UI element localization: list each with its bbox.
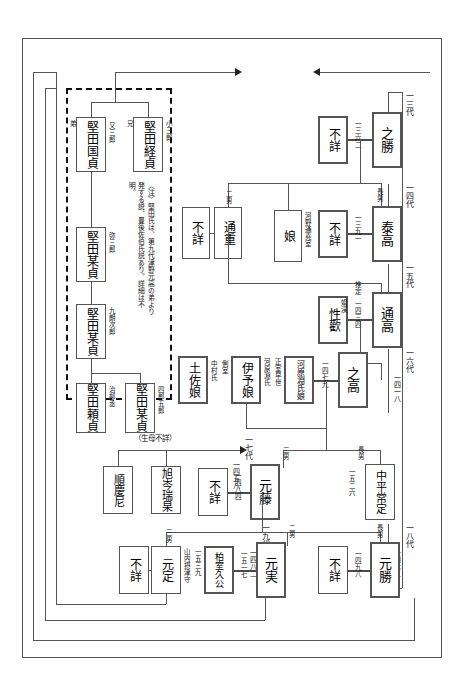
person-name: 順慶尼	[112, 474, 123, 507]
label-seibo-fushou: （生母不詳）	[134, 432, 176, 443]
person-box-nakahira: 中平常定	[365, 464, 395, 520]
ln-16-spine	[326, 428, 327, 450]
rail-right-outer	[414, 598, 415, 640]
person-box-bousada1: 堅田某貞	[76, 227, 106, 282]
person-name: 堅田某貞	[85, 231, 97, 279]
katada-note: 〈注〉堅田氏は、第九代津野元高の弟より発する説、豊後佐伯氏説あり。詳細は不明。	[126, 182, 154, 317]
ln-16-drop	[326, 380, 327, 428]
generation-label-16: 一六代	[404, 349, 412, 373]
year-yukikatsu: 一三六二	[353, 120, 360, 148]
ln-14-drop	[228, 233, 229, 283]
rank-motokatsu: 長男	[375, 524, 382, 538]
rank-motozane: 二男	[287, 524, 294, 538]
person-name: 元藤	[258, 479, 271, 505]
alt-name-shoukan: 娟渓	[339, 299, 346, 313]
generation-label-13: 一三代	[404, 92, 412, 116]
person-box-mototou: 元藤	[250, 464, 280, 520]
person-name: 通高	[380, 307, 393, 333]
ln-iyo-to-spine	[246, 428, 326, 429]
person-box-fushou-f: 不詳	[318, 546, 348, 594]
person-name: 不詳	[327, 222, 339, 246]
gen-number: 一八代	[404, 524, 413, 548]
person-name: 之勝	[380, 127, 393, 153]
person-box-fushou-d: 不詳	[198, 468, 228, 516]
note-kawaharabuchi: 正室早世	[273, 358, 280, 386]
person-box-tsunesada: 堅田経貞	[133, 117, 163, 172]
label-kunisada-alias: 又三郎	[107, 122, 114, 143]
bracket-16	[388, 349, 389, 413]
label-kunisada-rel: 弟	[68, 120, 75, 127]
clan-tosamusume: 中村氏	[209, 360, 216, 381]
gen-number: 一五代	[404, 264, 413, 288]
label-bousada1-alias: 弥三郎	[107, 232, 114, 253]
person-name: 娘	[282, 230, 294, 242]
clan-iyomusume: 河原淵氏	[262, 358, 269, 386]
rail-mid-inner	[56, 604, 166, 605]
ln-16-children	[283, 450, 380, 451]
label-bousada3-alias: 四郎五郎	[156, 386, 163, 414]
rail-bottom-outer	[33, 640, 415, 641]
year-nakahira: 一五二六	[347, 468, 354, 496]
person-name: 泰高	[380, 221, 393, 247]
rail-bottom-inner	[45, 620, 265, 621]
gen-number: 一四代	[404, 184, 413, 208]
gen-number: 一三代	[404, 92, 413, 116]
ln-yorisada-up	[91, 373, 92, 383]
gen-number: 一六代	[404, 349, 413, 373]
rank-mototou: 二男	[281, 446, 288, 460]
ln-13-children	[228, 183, 381, 184]
person-name: 旭岑瑞杲	[160, 468, 171, 512]
rail-mid-left	[56, 72, 57, 604]
ln-seibo-line	[118, 450, 240, 451]
rank-yasutaka: 長男	[375, 188, 382, 202]
arrow-seibo	[240, 446, 247, 454]
person-box-fushou-a: 不詳	[318, 116, 348, 164]
person-box-michitaka: 通高	[372, 292, 402, 348]
person-name: 元定	[160, 558, 172, 582]
year-mototou: 一四八四	[233, 472, 240, 500]
genealogy-chart: 堅田国貞 弟 又三郎 堅田経貞 兄 小三郎 堅田某貞 弥三郎 堅田某貞 九朗次郎…	[0, 0, 465, 695]
person-name: 堅田経貞	[142, 121, 154, 169]
person-name: 不詳	[207, 480, 219, 504]
prefix-michitaka: 推定	[353, 281, 360, 295]
person-box-motozane: 元実	[256, 542, 286, 598]
person-name: 不詳	[327, 558, 339, 582]
person-name: 堅田頼貞	[85, 384, 97, 432]
ln-bou2-children	[91, 373, 140, 374]
ln-junkeini-up	[118, 450, 119, 466]
ln-kyokushin-up	[166, 450, 167, 466]
person-name: 不詳	[190, 221, 202, 245]
rail-left-inner	[45, 88, 46, 620]
generation-year-19: 一四八二	[249, 549, 256, 577]
person-box-fushou-c: 不詳	[318, 210, 348, 258]
person-name: 不詳	[128, 558, 140, 582]
ln-katada-tsunesada	[148, 102, 149, 117]
ln-iyo-drop	[246, 404, 247, 428]
person-box-tosamusume: 土佐娘	[178, 356, 208, 404]
ln-17-drop	[262, 492, 263, 532]
year-hakushitsu: 一五一七	[239, 550, 246, 578]
note-musume: 河野通堯室	[303, 212, 310, 247]
person-name: 土佐娘	[187, 362, 199, 398]
label-bousada2-alias: 九朗次郎	[107, 307, 114, 335]
label-tsunesada-rel: 兄	[125, 120, 132, 127]
rank-motosada: 三男	[164, 529, 171, 543]
ln-kunisada-to-bou1	[91, 172, 92, 227]
note-tosamusume: 側室	[220, 360, 227, 374]
person-name: 之高	[346, 367, 359, 393]
arrow-left-top	[313, 68, 320, 76]
person-box-musume: 娘	[274, 210, 302, 262]
year-yasutaka: 一三九一	[353, 214, 360, 242]
person-box-yukikatsu: 之勝	[372, 112, 402, 168]
ln-katada-sibs	[91, 102, 148, 103]
ln-bou3-up	[140, 373, 141, 383]
title-motosada: 山内摂津守	[182, 548, 189, 583]
label-tsunesada-alias: 小三郎	[164, 120, 171, 141]
person-box-kawaharabuchi: 河原淵氏娘	[284, 356, 314, 404]
person-box-motokatsu: 元勝	[370, 542, 400, 598]
person-name: 中平常定	[374, 470, 385, 514]
ln-bou1-to-bou2	[91, 282, 92, 304]
person-name: 堅田某貞	[85, 308, 97, 356]
ln-13-drop	[360, 139, 361, 183]
bracket-right-edge	[402, 92, 403, 588]
